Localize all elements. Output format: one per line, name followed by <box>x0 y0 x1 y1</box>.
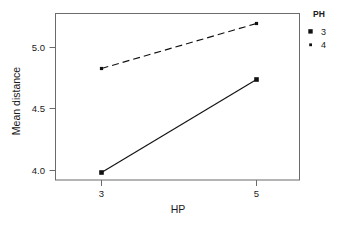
series-ph-3-point-2 <box>254 77 259 82</box>
legend-square-marker-icon <box>308 29 312 33</box>
plot-canvas: 5.0 4.5 4.0 3 5 HP Mean distance PH 3 4 <box>0 0 347 228</box>
x-tick-label-3: 3 <box>99 188 104 199</box>
plot-frame <box>56 14 300 181</box>
legend: PH 3 4 <box>308 9 326 50</box>
series-ph-4-point-2 <box>255 22 258 25</box>
legend-dot-marker-icon <box>309 43 312 46</box>
legend-title: PH <box>313 9 325 19</box>
x-tick-label-5: 5 <box>254 188 259 199</box>
series-ph-4-point-1 <box>100 67 103 70</box>
series-ph-4-line <box>102 24 257 69</box>
series-ph-4 <box>100 22 258 70</box>
series-ph-3 <box>99 77 259 175</box>
legend-item-label-4: 4 <box>321 40 326 50</box>
legend-item-label-3: 3 <box>321 27 326 37</box>
y-tick-label-4-0: 4.0 <box>32 165 45 176</box>
x-axis-ticks <box>102 180 257 186</box>
series-ph-3-point-1 <box>99 170 104 175</box>
y-tick-label-5-0: 5.0 <box>32 42 45 53</box>
interaction-plot: 5.0 4.5 4.0 3 5 HP Mean distance PH 3 4 <box>0 0 347 228</box>
y-axis-ticks <box>50 48 56 171</box>
series-ph-3-line <box>102 80 257 173</box>
y-axis-title: Mean distance <box>10 67 22 135</box>
y-tick-label-4-5: 4.5 <box>32 103 45 114</box>
x-axis-title: HP <box>171 203 186 215</box>
